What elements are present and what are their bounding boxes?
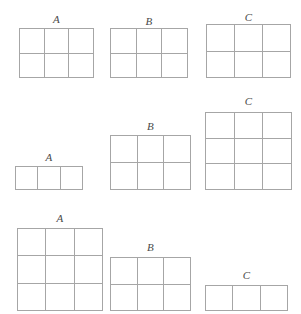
grid-cell (138, 285, 165, 312)
diagram-canvas: ABCABCABC (0, 0, 301, 314)
grid-cell (18, 229, 46, 256)
grid-cell (261, 286, 288, 311)
grid-cell (75, 284, 103, 311)
grid-cell (75, 256, 103, 283)
grid-cell (164, 258, 191, 285)
grid-label: B (110, 242, 191, 253)
grid-box (205, 285, 288, 311)
grid-label: C (205, 270, 288, 281)
grid-group-c: C (205, 0, 288, 314)
grid-group-b: B (110, 0, 191, 314)
grid-label: A (17, 213, 103, 224)
grid-cell (46, 284, 74, 311)
grid-box (17, 228, 103, 311)
grid-cell (75, 229, 103, 256)
grid-cell (111, 285, 138, 312)
grid-cell (46, 229, 74, 256)
grid-cell (111, 258, 138, 285)
grid-cell (138, 258, 165, 285)
grid-cell (46, 256, 74, 283)
grid-cell (18, 256, 46, 283)
grid-cell (164, 285, 191, 312)
grid-cell (233, 286, 260, 311)
diagram-row: ABC (0, 0, 301, 314)
grid-box (110, 257, 191, 311)
grid-group-a: A (17, 0, 103, 314)
grid-cell (206, 286, 233, 311)
grid-cell (18, 284, 46, 311)
